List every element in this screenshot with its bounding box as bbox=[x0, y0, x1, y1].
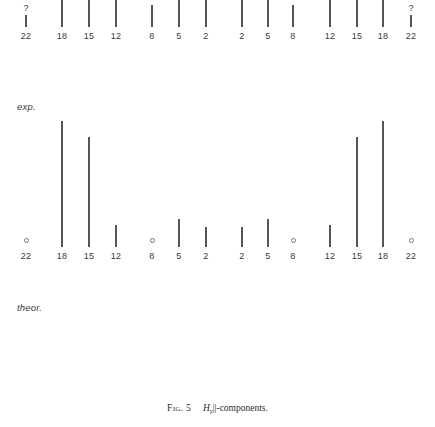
stem-line bbox=[88, 0, 90, 27]
stem-line bbox=[25, 15, 27, 27]
tick-label: 22 bbox=[15, 31, 37, 41]
tick-label: 2 bbox=[231, 31, 253, 41]
stem-field-experimental: ?22181512852258121518?22 bbox=[0, 0, 435, 222]
tick-label: 15 bbox=[346, 251, 368, 261]
stem-line bbox=[205, 227, 207, 247]
component-theor-7: 2 bbox=[235, 222, 249, 400]
stem-line bbox=[292, 5, 294, 27]
stem-field-theoretical: 2218151285225812151822 bbox=[0, 222, 435, 400]
component-exp-13: ?22 bbox=[404, 0, 418, 222]
open-circle-marker bbox=[409, 238, 414, 243]
stem-line bbox=[88, 137, 90, 247]
tick-label: 8 bbox=[282, 31, 304, 41]
tick-label: 12 bbox=[319, 251, 341, 261]
tick-label: 8 bbox=[141, 251, 163, 261]
stem-line bbox=[241, 0, 243, 27]
tick-label: 2 bbox=[195, 251, 217, 261]
tick-label: 12 bbox=[105, 31, 127, 41]
component-theor-12: 18 bbox=[376, 222, 390, 400]
stem-line bbox=[241, 227, 243, 247]
open-circle-marker bbox=[150, 238, 155, 243]
stem-line bbox=[329, 225, 331, 247]
tick-label: 15 bbox=[346, 31, 368, 41]
stem-line bbox=[356, 137, 358, 247]
tick-label: 8 bbox=[141, 31, 163, 41]
component-theor-3: 12 bbox=[109, 222, 123, 400]
panel-theoretical: theor. 2218151285225812151822 bbox=[0, 222, 435, 400]
stem-line bbox=[205, 0, 207, 27]
figure-hgamma-parallel-components: exp. ?22181512852258121518?22 theor. 221… bbox=[0, 0, 435, 427]
component-exp-6: 2 bbox=[199, 0, 213, 222]
component-theor-1: 18 bbox=[55, 222, 69, 400]
tick-label: 5 bbox=[168, 251, 190, 261]
tick-label: 5 bbox=[257, 31, 279, 41]
tick-label: 18 bbox=[372, 31, 394, 41]
stem-line bbox=[115, 0, 117, 27]
component-theor-11: 15 bbox=[350, 222, 364, 400]
tick-label: 18 bbox=[51, 31, 73, 41]
tick-label: 5 bbox=[168, 31, 190, 41]
component-theor-6: 2 bbox=[199, 222, 213, 400]
tick-label: 22 bbox=[15, 251, 37, 261]
component-exp-9: 8 bbox=[286, 0, 300, 222]
tick-label: 5 bbox=[257, 251, 279, 261]
stem-line bbox=[178, 219, 180, 247]
tick-label: 12 bbox=[319, 31, 341, 41]
tick-label: 22 bbox=[400, 31, 422, 41]
stem-line bbox=[151, 5, 153, 27]
tick-label: 8 bbox=[282, 251, 304, 261]
component-exp-10: 12 bbox=[323, 0, 337, 222]
panel-experimental: exp. ?22181512852258121518?22 bbox=[0, 0, 435, 222]
tick-label: 12 bbox=[105, 251, 127, 261]
tick-label: 15 bbox=[78, 31, 100, 41]
stem-line bbox=[267, 0, 269, 27]
stem-line bbox=[329, 0, 331, 27]
tick-label: 15 bbox=[78, 251, 100, 261]
tick-label: 2 bbox=[231, 251, 253, 261]
component-exp-5: 5 bbox=[172, 0, 186, 222]
open-circle-marker bbox=[291, 238, 296, 243]
open-circle-marker bbox=[24, 238, 29, 243]
component-exp-8: 5 bbox=[261, 0, 275, 222]
stem-line bbox=[356, 0, 358, 27]
tick-label: 22 bbox=[400, 251, 422, 261]
component-exp-7: 2 bbox=[235, 0, 249, 222]
component-theor-0: 22 bbox=[19, 222, 33, 400]
caption-symbol: H bbox=[203, 403, 210, 413]
component-exp-4: 8 bbox=[145, 0, 159, 222]
caption-rest: ||-components. bbox=[213, 403, 268, 413]
component-exp-0: ?22 bbox=[19, 0, 33, 222]
stem-line bbox=[267, 219, 269, 247]
component-theor-8: 5 bbox=[261, 222, 275, 400]
stem-line bbox=[382, 0, 384, 27]
component-theor-13: 22 bbox=[404, 222, 418, 400]
stem-line bbox=[115, 225, 117, 247]
figure-caption: Fig. 5Hγ||-components. bbox=[0, 403, 435, 415]
tick-label: 18 bbox=[51, 251, 73, 261]
stem-line bbox=[382, 121, 384, 247]
stem-line bbox=[61, 121, 63, 247]
component-theor-2: 15 bbox=[82, 222, 96, 400]
uncertainty-question-mark: ? bbox=[404, 4, 418, 13]
tick-label: 18 bbox=[372, 251, 394, 261]
component-exp-3: 12 bbox=[109, 0, 123, 222]
uncertainty-question-mark: ? bbox=[19, 4, 33, 13]
component-theor-4: 8 bbox=[145, 222, 159, 400]
stem-line bbox=[410, 15, 412, 27]
caption-figure-number: Fig. 5 bbox=[167, 403, 191, 413]
stem-line bbox=[61, 0, 63, 27]
component-theor-5: 5 bbox=[172, 222, 186, 400]
stem-line bbox=[178, 0, 180, 27]
component-theor-9: 8 bbox=[286, 222, 300, 400]
component-theor-10: 12 bbox=[323, 222, 337, 400]
tick-label: 2 bbox=[195, 31, 217, 41]
